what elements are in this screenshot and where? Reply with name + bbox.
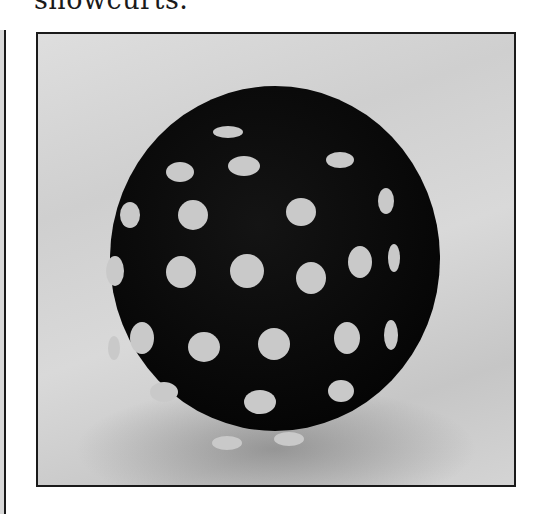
- ball-spot: [348, 246, 372, 278]
- adjacent-figure-edge: [0, 30, 6, 514]
- ball-spot: [106, 256, 124, 286]
- ball-spot: [212, 436, 242, 450]
- ball-spot: [378, 188, 394, 214]
- ball-spot: [244, 390, 276, 414]
- ball-spot: [296, 262, 326, 294]
- ball-spot: [166, 162, 194, 182]
- ball-spot: [178, 200, 208, 230]
- ball-spot: [328, 380, 354, 402]
- ball-spot: [213, 126, 243, 138]
- ball-spot: [230, 254, 264, 288]
- ball-spot: [150, 382, 178, 402]
- ball-spot: [188, 332, 220, 362]
- ball-spot: [108, 336, 120, 360]
- ball-spot: [274, 432, 304, 446]
- ball-spot: [166, 256, 196, 288]
- ball-spot: [326, 152, 354, 168]
- ball-spot: [388, 244, 400, 272]
- ball-spot: [130, 322, 154, 354]
- ball-spot: [384, 320, 398, 350]
- ball-spot: [120, 202, 140, 228]
- ball-spot: [228, 156, 260, 176]
- photograph-figure: [36, 32, 516, 487]
- ball-spot: [286, 198, 316, 226]
- ball-spot: [334, 322, 360, 354]
- ball-image: [110, 86, 440, 431]
- ball-spot: [258, 328, 290, 360]
- page-text-fragment-top: showcurts.: [34, 0, 188, 15]
